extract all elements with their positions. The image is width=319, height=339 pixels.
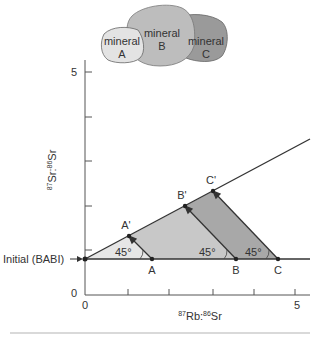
- y-ticks: [85, 72, 92, 250]
- mineral-a-id: A: [118, 48, 126, 60]
- y-tick-0: 0: [71, 287, 77, 299]
- angle-label-b: 45°: [199, 246, 216, 258]
- initial-arrow-icon: [70, 256, 83, 262]
- mineral-a-label: mineral: [104, 35, 140, 47]
- y-tick-5: 5: [71, 66, 77, 78]
- x-tick-0: 0: [82, 299, 88, 311]
- mineral-b-id: B: [158, 40, 165, 52]
- point-b-prime-label: B': [177, 189, 186, 201]
- mineral-c-id: C: [202, 48, 210, 60]
- x-axis-label: 87Rb:86Sr: [178, 310, 222, 322]
- point-c-prime-label: C': [206, 174, 216, 186]
- x-tick-5: 5: [294, 299, 300, 311]
- angle-label-a: 45°: [115, 246, 132, 258]
- angle-label-c: 45°: [245, 246, 262, 258]
- mineral-c-label: mineral: [188, 35, 224, 47]
- mineral-b-label: mineral: [144, 27, 180, 39]
- point-c-label: C: [274, 264, 282, 276]
- point-a-label: A: [148, 264, 156, 276]
- x-ticks: [128, 289, 295, 295]
- point-a-prime-label: A': [121, 219, 130, 231]
- mineral-cluster: mineral A mineral B mineral C: [101, 5, 227, 66]
- point-b-label: B: [232, 264, 239, 276]
- initial-babi-label: Initial (BABI): [3, 253, 64, 265]
- y-axis-label: 87Sr:86Sr: [46, 149, 58, 190]
- isochron-diagram: mineral A mineral B mineral C 5 0 0 5 87…: [0, 0, 319, 339]
